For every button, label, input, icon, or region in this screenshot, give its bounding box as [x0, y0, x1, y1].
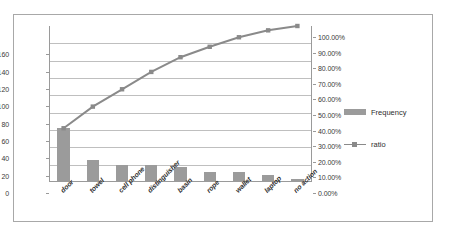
- right-axis-tickmark: [313, 99, 316, 100]
- ratio-marker: [266, 28, 270, 32]
- ratio-marker: [295, 24, 299, 28]
- left-axis-tickmark: [46, 176, 49, 177]
- bar-swatch-icon: [344, 109, 366, 115]
- category-axis-labels: doortowelcell phonedistinguisherbasinrop…: [49, 185, 312, 229]
- right-axis-tick-label: 100.00%: [318, 34, 366, 41]
- chart-frame: 020406080100120140160 0.00%10.00%20.00%3…: [13, 14, 433, 222]
- legend-label-ratio: ratio: [371, 140, 386, 149]
- right-axis-tick-label: 80.00%: [318, 65, 366, 72]
- left-axis-tick-label: 120: [0, 86, 9, 93]
- legend-item-frequency: Frequency: [344, 105, 440, 119]
- chart-legend: Frequency ratio: [344, 105, 440, 169]
- right-axis-tick-label: 0.00%: [318, 190, 366, 197]
- left-axis-tickmark: [46, 141, 49, 142]
- left-axis-tick-label: 20: [0, 172, 9, 179]
- right-axis-tickmark: [313, 68, 316, 69]
- left-axis-tickmark: [46, 72, 49, 73]
- right-axis-line: [311, 26, 312, 182]
- right-axis-tickmark: [313, 115, 316, 116]
- ratio-marker: [237, 35, 241, 39]
- ratio-marker: [120, 87, 124, 91]
- right-axis-tick-label: 90.00%: [318, 49, 366, 56]
- left-axis-tickmark: [46, 54, 49, 55]
- plot-area: 020406080100120140160 0.00%10.00%20.00%3…: [49, 26, 312, 182]
- legend-label-frequency: Frequency: [371, 108, 406, 117]
- line-square-swatch-icon: [344, 141, 366, 148]
- left-axis-tick-label: 80: [0, 120, 9, 127]
- right-axis-tick-label: 60.00%: [318, 96, 366, 103]
- ratio-marker: [61, 126, 65, 130]
- right-axis-tickmark: [313, 193, 316, 194]
- left-axis-tick-label: 0: [0, 190, 9, 197]
- plot-inner: [49, 26, 312, 182]
- right-axis-tickmark: [313, 146, 316, 147]
- chart-page: 020406080100120140160 0.00%10.00%20.00%3…: [0, 0, 450, 251]
- left-axis-tickmark: [46, 89, 49, 90]
- left-axis-tickmark: [46, 158, 49, 159]
- right-axis-tickmark: [313, 37, 316, 38]
- left-axis-tickmark: [46, 106, 49, 107]
- ratio-marker: [91, 104, 95, 108]
- left-axis-tick-label: 140: [0, 68, 9, 75]
- left-axis-tick-label: 160: [0, 51, 9, 58]
- right-axis-tickmark: [313, 177, 316, 178]
- ratio-marker: [178, 55, 182, 59]
- left-axis-tick-label: 40: [0, 155, 9, 162]
- left-axis-line: [49, 26, 50, 182]
- right-axis-tickmark: [313, 84, 316, 85]
- left-axis-tick-label: 100: [0, 103, 9, 110]
- right-axis-tick-label: 10.00%: [318, 174, 366, 181]
- ratio-marker: [149, 70, 153, 74]
- legend-item-ratio: ratio: [344, 137, 440, 151]
- right-axis-tick-label: 70.00%: [318, 80, 366, 87]
- left-axis-tickmark: [46, 124, 49, 125]
- right-axis-tickmark: [313, 162, 316, 163]
- ratio-marker: [208, 45, 212, 49]
- left-axis-tick-label: 60: [0, 138, 9, 145]
- ratio-line: [64, 26, 298, 128]
- right-axis-tickmark: [313, 131, 316, 132]
- line-series-ratio: [49, 26, 312, 182]
- right-axis-tickmark: [313, 53, 316, 54]
